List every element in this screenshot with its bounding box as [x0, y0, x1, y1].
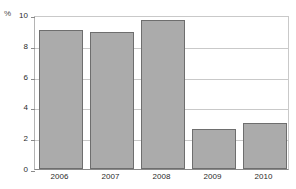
y-axis-tick-label: 6: [24, 74, 28, 82]
bar: [243, 123, 287, 169]
y-axis-tick-label: 8: [24, 43, 28, 51]
bar: [39, 30, 83, 169]
bar-chart: % 0246810 20062007200820092010: [0, 0, 296, 189]
x-axis-tick-label: 2010: [238, 172, 289, 182]
y-axis-tick-label: 0: [24, 166, 28, 174]
bar: [90, 32, 134, 169]
x-axis-tick-label: 2006: [34, 172, 85, 182]
bar: [141, 20, 185, 169]
bar: [192, 129, 236, 169]
y-axis-tick-label: 2: [24, 135, 28, 143]
bar-series: [35, 17, 288, 169]
y-axis-tick-label: 4: [24, 104, 28, 112]
y-axis-tick-label: 10: [19, 12, 28, 20]
x-axis-tick-labels: 20062007200820092010: [34, 172, 289, 188]
x-axis-tick-label: 2008: [136, 172, 187, 182]
x-axis-tick-label: 2007: [85, 172, 136, 182]
y-axis-tick-labels: 0246810: [0, 0, 34, 189]
x-axis-tick-label: 2009: [187, 172, 238, 182]
plot-area: [34, 16, 289, 170]
